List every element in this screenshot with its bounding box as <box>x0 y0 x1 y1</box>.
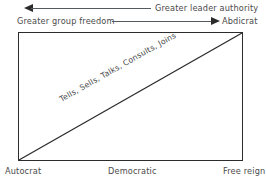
axis-label-democratic: Democratic <box>108 167 157 175</box>
leader-authority-label: Greater leader authority <box>155 4 258 12</box>
group-freedom-label: Greater group freedom <box>17 17 115 25</box>
leader-authority-annotation: Greater leader authority <box>0 2 266 14</box>
arrow-right-icon <box>211 17 220 25</box>
group-freedom-arrow-shaft <box>112 21 214 22</box>
leadership-continuum-diagram: Greater leader authority Greater group f… <box>0 0 266 179</box>
group-freedom-annotation: Greater group freedom Abdicrat <box>0 16 266 28</box>
abdicrat-label: Abdicrat <box>222 17 258 25</box>
axis-label-free-reign: Free reign <box>223 167 265 175</box>
axis-label-autocrat: Autocrat <box>5 167 41 175</box>
continuum-rectangle <box>18 32 243 161</box>
leader-authority-arrow-shaft <box>31 8 151 9</box>
